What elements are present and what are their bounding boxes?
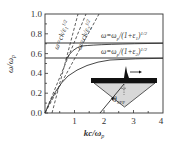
annotation-asymptote-eps2: ω=ωp/(1+ε2)1/2 — [101, 47, 147, 57]
dispersion-chart: 0.0 0.2 0.4 0.6 0.8 1.0 1 2 3 4 kc/ωp ω/… — [0, 0, 173, 145]
x-tick-4: 4 — [159, 116, 164, 126]
y-tick-0: 0.0 — [31, 108, 43, 118]
x-axis-title: kc/ωp — [84, 128, 105, 139]
y-tick-1.0: 1.0 — [31, 9, 43, 19]
y-axis-title: ω/ωp — [5, 55, 16, 73]
spp-field-spike — [124, 66, 129, 78]
x-tick-3: 3 — [131, 116, 136, 126]
annotation-light-eps1: ω=ck/ε11/2 — [52, 19, 72, 51]
y-tick-labels: 0.0 0.2 0.4 0.6 0.8 1.0 — [31, 9, 43, 118]
metal-film — [91, 78, 157, 83]
y-tick-0.2: 0.2 — [31, 88, 42, 98]
arrow-head-icon — [139, 71, 142, 74]
y-tick-0.8: 0.8 — [31, 29, 43, 39]
x-tick-labels: 1 2 3 4 — [72, 116, 164, 126]
x-tick-1: 1 — [72, 116, 77, 126]
prism-inset: θSPP — [91, 66, 157, 113]
y-tick-0.4: 0.4 — [31, 68, 43, 78]
y-tick-0.6: 0.6 — [31, 49, 43, 59]
x-tick-2: 2 — [102, 116, 107, 126]
annotation-asymptote-eps1: ω=ωp/(1+ε1)1/2 — [101, 31, 147, 41]
